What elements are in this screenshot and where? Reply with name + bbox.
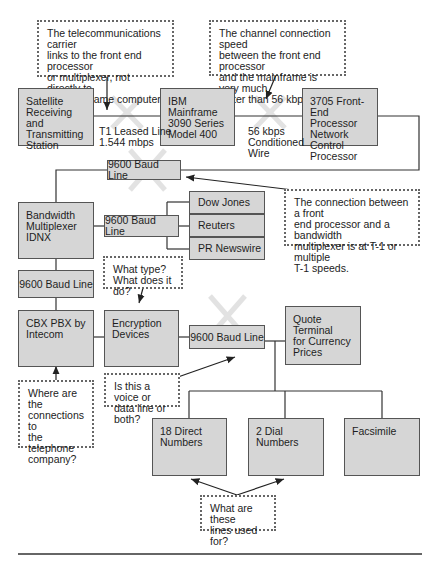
node-reuters: Reuters	[189, 214, 265, 237]
baud-line-label: 9600 Baud Line	[19, 279, 93, 290]
note-what-type: What type? What does it do?	[103, 256, 183, 289]
node-baud-line-left: 9600 Baud Line	[18, 270, 94, 298]
bottom-rule	[18, 553, 422, 555]
feed-label: PR Newswire	[198, 243, 261, 254]
node-dow-jones: Dow Jones	[189, 191, 265, 214]
node-baud-line-low: 9600 Baud Line	[189, 325, 265, 349]
node-direct-numbers: 18 Direct Numbers	[152, 418, 227, 476]
link-label-t1: T1 Leased Line 1.544 mbps	[99, 126, 171, 148]
note-carrier-link: The telecommunications carrier links to …	[37, 20, 174, 77]
node-baud-line-top: 9600 Baud Line	[107, 160, 181, 180]
network-diagram: The telecommunications carrier links to …	[0, 0, 438, 565]
note-channel-speed: The channel connection speed between the…	[209, 20, 346, 76]
note-voice-or-data: Is this a voice or data line or both?	[104, 373, 180, 407]
node-satellite-station: Satellite Receiving and Transmitting Sta…	[18, 88, 94, 146]
node-front-end-processor: 3705 Front-End Processor Network Control…	[302, 88, 378, 146]
note-telephone-connections: Where are the connections to the telepho…	[18, 380, 94, 448]
feed-label: Reuters	[198, 220, 235, 231]
node-baud-line-feeds: 9600 Baud Line	[104, 215, 179, 237]
link-label-56kbps: 56 kbps Conditioned Wire	[248, 126, 304, 159]
node-facsimile: Facsimile	[344, 418, 420, 476]
node-encryption-devices: Encryption Devices	[104, 310, 179, 367]
node-bandwidth-multiplexer: Bandwidth Multiplexer IDNX	[18, 202, 94, 259]
baud-line-label: 9600 Baud Line	[190, 332, 264, 343]
baud-line-label: 9600 Baud Line	[108, 159, 180, 181]
note-fep-multiplexer-speed: The connection between a front end proce…	[284, 189, 420, 246]
node-quote-terminal: Quote Terminal for Currency Prices	[285, 306, 361, 365]
note-lines-used-for: What are these lines used for?	[200, 495, 276, 531]
node-dial-numbers: 2 Dial Numbers	[248, 418, 324, 476]
node-pr-newswire: PR Newswire	[189, 237, 265, 260]
feed-label: Dow Jones	[198, 197, 250, 208]
node-cbx-pbx: CBX PBX by Intecom	[18, 310, 94, 367]
baud-line-label: 9600 Baud Line	[105, 215, 178, 237]
